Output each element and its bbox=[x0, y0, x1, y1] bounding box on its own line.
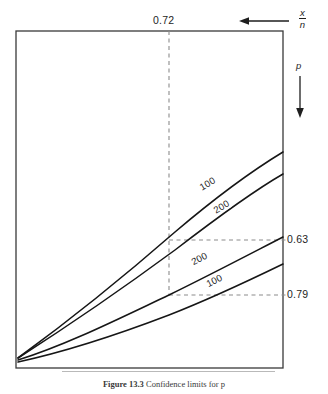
p-axis-arrow-icon bbox=[296, 76, 304, 118]
figure-caption-number: Figure 13.3 bbox=[103, 379, 144, 389]
x-axis-arrow-icon bbox=[239, 17, 289, 25]
p-axis-title: p bbox=[296, 61, 301, 71]
curve-lower-100 bbox=[18, 264, 283, 362]
readout-label-079: 0.79 bbox=[287, 288, 308, 300]
x-axis-title-numerator: x bbox=[299, 8, 306, 19]
figure-container: x n p 0.72 0.63 0.79 100 200 200 100 Fig… bbox=[0, 0, 328, 394]
readout-label-072: 0.72 bbox=[153, 14, 174, 26]
figure-caption-text: Confidence limits for p bbox=[146, 379, 225, 389]
figure-caption: Figure 13.3 Confidence limits for p bbox=[0, 379, 328, 389]
page-rule-divider bbox=[62, 371, 275, 372]
curve-upper-200 bbox=[18, 174, 283, 358]
x-axis-title-denominator: n bbox=[299, 19, 306, 29]
curve-upper-100 bbox=[18, 152, 283, 358]
readout-label-063: 0.63 bbox=[287, 233, 308, 245]
curve-lower-200 bbox=[18, 237, 283, 360]
x-axis-title: x n bbox=[299, 8, 306, 30]
confidence-limits-plot bbox=[0, 0, 328, 394]
